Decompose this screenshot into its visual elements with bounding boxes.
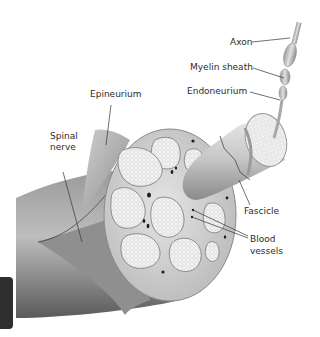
- label-myelin-sheath: Myelin sheath: [190, 62, 253, 72]
- label-spinal-nerve-line2: nerve: [50, 142, 76, 152]
- label-spinal-nerve-line1: Spinal: [50, 131, 78, 141]
- side-tab: [0, 277, 13, 329]
- label-blood-vessels-line2: vessels: [250, 246, 283, 256]
- label-epineurium: Epineurium: [90, 89, 142, 99]
- label-blood-vessels-line1: Blood: [250, 234, 275, 244]
- nerve-diagram: Axon Myelin sheath Endoneurium Epineuriu…: [0, 0, 320, 337]
- label-axon: Axon: [230, 37, 252, 47]
- label-fascicle: Fascicle: [244, 206, 279, 216]
- label-endoneurium: Endoneurium: [187, 86, 247, 96]
